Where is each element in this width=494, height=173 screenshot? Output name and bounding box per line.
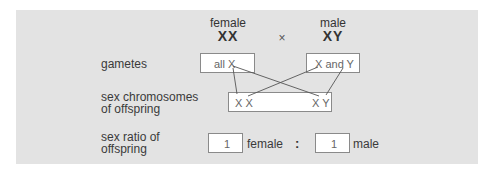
female-ratio-word: female [247, 138, 283, 151]
female-ratio-value: 1 [224, 138, 230, 150]
female-ratio-box: 1 [208, 133, 243, 153]
male-ratio-word: male [353, 138, 379, 151]
male-ratio-value: 1 [331, 138, 337, 150]
ratio-separator: : [295, 136, 299, 151]
male-ratio-box: 1 [315, 133, 350, 153]
